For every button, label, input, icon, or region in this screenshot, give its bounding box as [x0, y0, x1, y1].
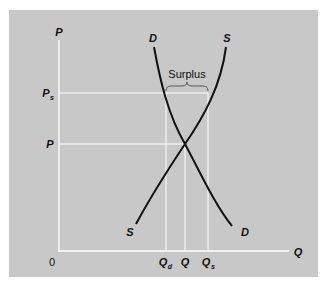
qd-subscript: d	[168, 263, 173, 270]
qd-label: Q	[159, 256, 168, 268]
q-label: Q	[181, 256, 190, 268]
ps-subscript: s	[50, 94, 54, 101]
demand-label-bottom: D	[241, 226, 249, 238]
origin-label: 0	[49, 256, 55, 268]
surplus-label: Surplus	[168, 68, 206, 80]
surplus-brace	[166, 82, 208, 91]
supply-demand-diagram: Surplus D S D S P Q 0 P s P Q d Q Q s	[0, 0, 331, 292]
qs-subscript: s	[211, 263, 215, 270]
y-axis-label: P	[55, 26, 63, 38]
p-label: P	[46, 138, 54, 150]
supply-label-top: S	[223, 32, 231, 44]
x-axis-label: Q	[294, 246, 303, 258]
supply-label-bottom: S	[126, 226, 134, 238]
qs-label: Q	[202, 256, 211, 268]
demand-label-top: D	[149, 32, 157, 44]
